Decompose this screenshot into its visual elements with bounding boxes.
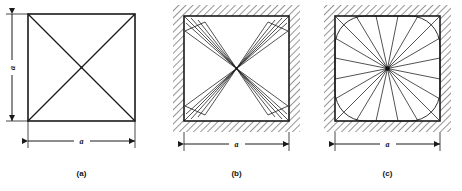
dimension-label-vertical-a: a (8, 66, 17, 70)
panel-c: a (c) (310, 0, 462, 191)
center-point-b (235, 67, 238, 70)
panel-caption-c: (c) (383, 169, 393, 178)
panel-a: a a (a) (0, 0, 155, 191)
panel-caption-b: (b) (231, 169, 242, 178)
center-point-c (385, 66, 389, 70)
panel-b: a (b) (155, 0, 310, 191)
dimension-label-horizontal-a: a (80, 137, 84, 146)
dimension-label-horizontal-c: a (386, 140, 390, 149)
figure-container: a a (a) (0, 0, 462, 191)
dimension-label-horizontal-b: a (235, 140, 239, 149)
panel-caption-a: (a) (77, 169, 87, 178)
center-point-a (80, 66, 82, 68)
